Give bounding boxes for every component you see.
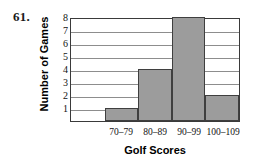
x-axis-title: Golf Scores bbox=[70, 144, 240, 156]
bar bbox=[138, 69, 172, 121]
y-tick-label: 8 bbox=[56, 12, 68, 24]
x-tick-label: 100–109 bbox=[206, 126, 240, 139]
y-tick-label: 7 bbox=[56, 25, 68, 37]
y-tick-label: 4 bbox=[56, 64, 68, 76]
bar-slot bbox=[138, 19, 172, 121]
y-axis-tick-labels: 87654321 bbox=[56, 12, 68, 116]
x-axis-tick-labels: 70–7980–8990–99100–109 bbox=[70, 126, 240, 139]
y-tick-label: 5 bbox=[56, 51, 68, 63]
x-tick-label bbox=[70, 126, 104, 139]
bar bbox=[105, 108, 139, 121]
histogram-figure: 61. Number of Games 87654321 70–7980–899… bbox=[0, 0, 253, 166]
bar bbox=[172, 17, 206, 121]
bars-layer bbox=[71, 19, 239, 121]
y-tick-label: 3 bbox=[56, 77, 68, 89]
y-tick-label: 6 bbox=[56, 38, 68, 50]
bar-slot bbox=[105, 19, 139, 121]
y-axis-title: Number of Games bbox=[36, 16, 52, 112]
x-tick-label: 80–89 bbox=[138, 126, 172, 139]
bar bbox=[205, 95, 239, 121]
plot-area bbox=[70, 18, 240, 122]
bar-slot bbox=[71, 19, 105, 121]
problem-number: 61. bbox=[13, 9, 30, 25]
x-tick-label: 70–79 bbox=[104, 126, 138, 139]
bar-slot bbox=[205, 19, 239, 121]
y-tick-label: 1 bbox=[56, 103, 68, 115]
x-tick-label: 90–99 bbox=[172, 126, 206, 139]
bar-slot bbox=[172, 19, 206, 121]
y-tick-label: 2 bbox=[56, 90, 68, 102]
